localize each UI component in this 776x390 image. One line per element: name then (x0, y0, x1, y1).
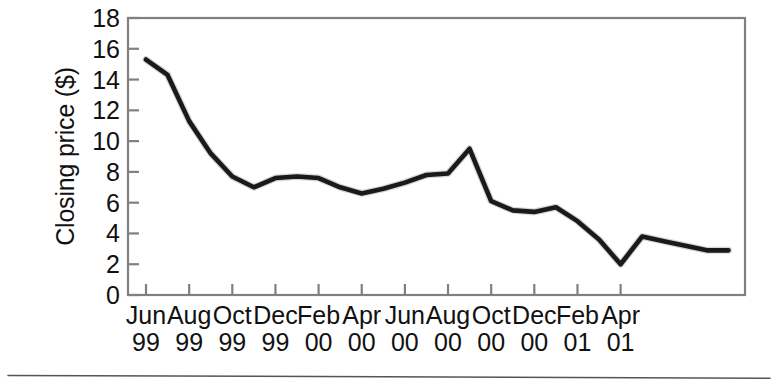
axis-ticks (128, 18, 621, 295)
data-series-group (146, 60, 728, 265)
axes-frame (128, 18, 745, 295)
chart-screenshot: Closing price ($) 181614121086420 Jun99A… (0, 0, 776, 390)
page-rule-artifact (0, 374, 776, 380)
x-tick-year: 01 (585, 329, 657, 356)
x-tick-label: Apr01 (585, 302, 657, 356)
line-chart-figure: Closing price ($) 181614121086420 Jun99A… (0, 0, 776, 372)
x-tick-month: Apr (585, 302, 657, 329)
x-axis-tick-labels: Jun99Aug99Oct99Dec99Feb00Apr00Jun00Aug00… (0, 302, 776, 372)
